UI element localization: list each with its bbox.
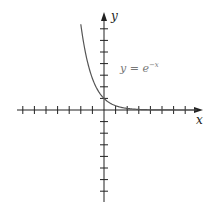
axes [17,12,203,202]
y-axis-arrow-icon [101,12,107,21]
equation-label: y = e−x [119,61,159,75]
equation-exponent: −x [149,61,159,69]
x-axis-label: x [196,113,203,127]
equation-base: y = e [119,62,149,75]
y-axis-label: y [110,9,118,23]
function-plot: x y y = e−x [0,0,216,212]
